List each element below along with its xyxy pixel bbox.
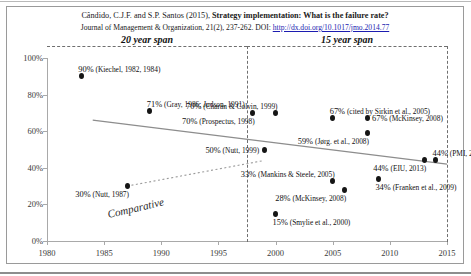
data-point-source: (McKinsey, 2008) [291,194,347,203]
data-point-value: 33% [241,170,256,179]
plot-area: 0%20%40%60%80%100% 198019851990199520002… [47,58,447,241]
span-rule-right [247,46,447,47]
x-tick-label: 2005 [313,248,353,258]
data-point-label: 28% (McKinsey, 2008) [275,194,346,203]
data-point-value: 34% [375,183,390,192]
citation-block: Cândido, C.J.F. and S.P. Santos (2015), … [6,10,464,33]
data-point-value: 30% [75,190,90,199]
span-label-left: 20 year span [77,34,217,45]
scan-edge-bottom [0,272,471,274]
data-point-label: 33% (Mankins & Steele, 2005) [241,170,335,179]
data-point-label: 90% (Kiechel, 1982, 1984) [78,65,160,74]
data-point-label: 15% (Smylie et al., 2000) [273,218,351,227]
data-point-source: (Smylie et al., 2000) [288,218,350,227]
citation-title: Strategy implementation: What is the fai… [212,11,389,20]
data-point-label: 70% (Charan & Colvin, 1999) [186,102,278,111]
data-point-source: (Mankins & Steele, 2005) [256,170,335,179]
x-tick-mark [390,241,391,245]
data-point-label: 67% (McKinsey, 2008) [372,114,443,123]
data-point-value: 67% [330,107,345,116]
data-point-label: 44% (PMI, 2014) [433,149,471,158]
x-tick-mark [276,241,277,245]
span-label-right: 15 year span [277,34,417,45]
scan-edge-top [0,1,471,2]
data-point-value: 71% [147,100,162,109]
span-rule-left [47,46,247,47]
data-point-value: 59% [298,137,313,146]
x-tick-label: 1990 [141,248,181,258]
citation-journal: Journal of Management & Organization, 21… [81,23,273,32]
data-point-label: 70% (Prospectus, 1998) [182,117,255,126]
data-point-source: (Prospectus, 1998) [197,117,254,126]
data-point[interactable] [273,211,278,217]
data-point-label: 59% (Jørg. et al., 2008) [298,137,369,146]
data-point-source: (Nutt, 1999) [221,146,259,155]
x-tick-mark [161,241,162,245]
data-point-value: 44% [433,149,448,158]
data-point-source: (Jørg. et al., 2008) [313,137,369,146]
data-point-source: (Nutt, 1987) [91,190,129,199]
data-point-label: 44% (EIU, 2013) [373,164,426,173]
x-tick-label: 1995 [198,248,238,258]
data-point-value: 67% [372,114,387,123]
x-tick-mark [218,241,219,245]
y-tick-label: 40% [9,163,43,173]
data-point-value: 90% [78,65,93,74]
data-point-source: (EIU, 2013) [389,164,427,173]
data-point-source: (Franken et al., 2009) [391,183,457,192]
citation-line-1: Cândido, C.J.F. and S.P. Santos (2015), … [6,10,464,21]
data-point-value: 70% [186,102,201,111]
x-tick-label: 2000 [256,248,296,258]
citation-doi-link[interactable]: http://dx.doi.org/10.1017/jmo.2014.77 [273,23,390,32]
data-point-value: 28% [275,194,290,203]
x-tick-label: 1980 [27,248,67,258]
y-tick-label: 60% [9,126,43,136]
data-point-source: (Charan & Colvin, 1999) [201,102,277,111]
x-tick-mark [333,241,334,245]
data-point[interactable] [262,147,267,153]
x-tick-mark [104,241,105,245]
data-point-label: 34% (Franken et al., 2009) [375,183,456,192]
x-tick-label: 2015 [427,248,467,258]
data-point-value: 15% [273,218,288,227]
y-tick-label: 20% [9,199,43,209]
y-tick-label: 0% [9,236,43,246]
data-point-value: 44% [373,164,388,173]
data-point-label: 50% (Nutt, 1999) [205,146,259,155]
x-tick-label: 1985 [84,248,124,258]
data-point-value: 50% [205,146,220,155]
data-point-source: (McKinsey, 2008) [387,114,443,123]
figure-page: Cândido, C.J.F. and S.P. Santos (2015), … [0,0,471,276]
data-point[interactable] [365,115,370,121]
x-tick-mark [47,241,48,245]
data-point-source: (PMI, 2014) [448,149,471,158]
x-tick-label: 2010 [370,248,410,258]
data-point[interactable] [125,183,130,189]
data-point-label: 30% (Nutt, 1987) [75,190,129,199]
data-point-value: 70% [182,117,197,126]
data-point[interactable] [342,187,347,193]
edge-dash-year-2015 [447,46,448,242]
trend-line-main [93,120,447,164]
data-point[interactable] [376,176,381,182]
y-tick-label: 100% [9,53,43,63]
citation-line-2: Journal of Management & Organization, 21… [6,22,464,33]
data-point[interactable] [365,130,370,136]
data-point-source: (Kiechel, 1982, 1984) [94,65,161,74]
citation-authors: Cândido, C.J.F. and S.P. Santos (2015), [81,11,212,20]
y-tick-label: 80% [9,90,43,100]
